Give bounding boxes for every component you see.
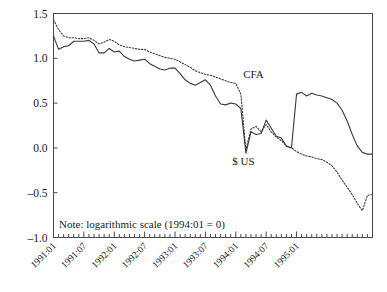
x-tick-label: 1992:01	[90, 241, 119, 270]
y-tick-label: 0.0	[33, 142, 48, 154]
x-tick-label: 1991:01	[29, 241, 58, 270]
chart-note: Note: logarithmic scale (1994:01 = 0)	[59, 218, 225, 231]
x-tick-label: 1991:07	[59, 241, 88, 270]
series-line-usd	[54, 20, 373, 211]
x-tick-label: 1994:01	[211, 241, 240, 270]
x-tick-label: 1994:07	[241, 241, 270, 270]
y-tick-label: 1.5	[33, 8, 48, 20]
x-tick-label: 1995:01	[272, 241, 301, 270]
y-tick-label: 1.0	[33, 52, 48, 64]
chart-container: 1.51.00.50.0–0.5–1.0 1991:011991:071992:…	[0, 0, 387, 292]
x-axis-ticks	[54, 232, 373, 238]
series-line-cfa	[54, 36, 373, 154]
y-axis-ticks: 1.51.00.50.0–0.5–1.0	[26, 8, 57, 244]
y-tick-label: –0.5	[26, 187, 47, 199]
x-tick-label: 1993:01	[150, 241, 179, 270]
y-tick-label: 0.5	[33, 97, 48, 109]
x-tick-label: 1992:07	[120, 241, 149, 270]
y-tick-label: –1.0	[26, 232, 47, 244]
line-chart: 1.51.00.50.0–0.5–1.0 1991:011991:071992:…	[0, 0, 387, 292]
series-label-cfa: CFA	[243, 68, 264, 80]
x-tick-label: 1993:07	[181, 241, 210, 270]
plot-frame	[54, 14, 373, 238]
x-axis-labels: 1991:011991:071992:011992:071993:011993:…	[29, 241, 301, 270]
series-label-usd: $ US	[232, 155, 254, 167]
